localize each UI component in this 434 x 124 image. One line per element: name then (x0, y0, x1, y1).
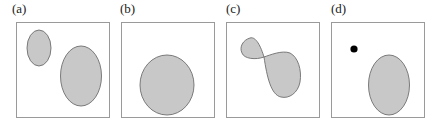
pinched-two-lobe-region (241, 38, 301, 98)
panel-d (332, 23, 425, 118)
panel-c (227, 23, 320, 118)
large-ellipse-region (61, 46, 102, 106)
panel-a (17, 23, 110, 118)
ellipse-region (369, 55, 410, 115)
topology-figure (0, 0, 434, 124)
small-ellipse-region (27, 30, 51, 66)
isolated-point (350, 45, 357, 52)
single-ellipse-region (140, 55, 194, 115)
panel-b (122, 23, 215, 118)
